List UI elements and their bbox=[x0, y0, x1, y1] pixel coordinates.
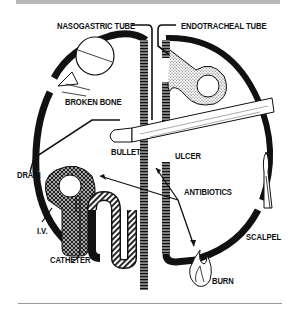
bullet-shape bbox=[110, 128, 132, 142]
left-tract bbox=[140, 40, 148, 290]
label-drain: DRAIN bbox=[17, 170, 41, 180]
label-iv: I.V. bbox=[37, 226, 47, 236]
label-nasogastric-tube: NASOGASTRIC TUBE bbox=[57, 21, 135, 31]
drain-line bbox=[30, 120, 120, 172]
broken-bone-shape bbox=[58, 72, 78, 86]
right-tract-lower bbox=[162, 162, 170, 254]
label-broken-bone: BROKEN BONE bbox=[65, 97, 121, 107]
label-scalpel: SCALPEL bbox=[246, 232, 281, 242]
body-diagram bbox=[0, 0, 293, 315]
label-ulcer: ULCER bbox=[175, 151, 201, 161]
bottom-rule bbox=[18, 303, 282, 304]
label-endotracheal-tube: ENDOTRACHEAL TUBE bbox=[181, 21, 266, 31]
label-burn: BURN bbox=[212, 276, 234, 286]
label-catheter: CATHETER bbox=[50, 255, 90, 265]
label-bullet: BULLET bbox=[111, 147, 141, 157]
label-antibiotics: ANTIBIOTICS bbox=[184, 187, 232, 197]
